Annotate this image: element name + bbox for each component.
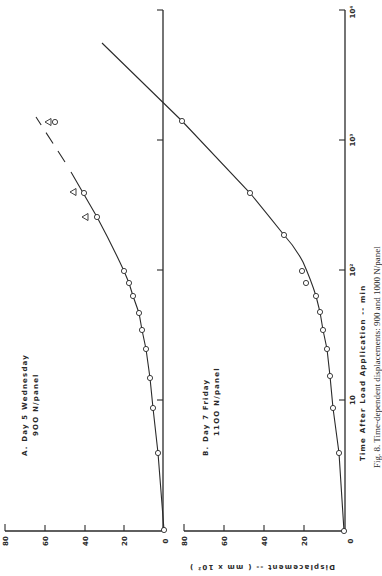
panel-a-disp-label-80: 80 — [2, 536, 10, 546]
figure: 0 20 40 60 80 0 20 40 60 80 10 10² 10³ 1… — [0, 0, 382, 576]
figure-caption: Fig. 8. Time-dependent displacements: 90… — [372, 246, 382, 468]
panel-a-fit-curve — [71, 172, 164, 530]
time-label-100: 10² — [349, 264, 357, 277]
panel-a-circle-markers — [52, 119, 166, 532]
x-axis-label: Time After Load Application -- min — [359, 285, 367, 461]
panel-b-disp-label-0: 0 — [347, 538, 355, 543]
time-label-10000: 10⁴ — [349, 6, 357, 19]
panel-b — [102, 10, 347, 534]
y-axis-label: Displacement -- ( mm x 10² ) — [189, 563, 335, 571]
panel-a — [5, 10, 167, 533]
panel-b-title-line2: 11OO N/panel — [213, 367, 221, 436]
panel-a-title-line2: 9OO N/panel — [32, 373, 40, 436]
panel-b-disp-label-80: 80 — [181, 536, 189, 546]
panel-b-title-line1: B. Day 7 Friday — [202, 379, 210, 456]
time-label-10: 10 — [349, 395, 357, 405]
panel-a-disp-label-60: 60 — [42, 536, 50, 546]
time-tick-labels: 10 10² 10³ 10⁴ — [349, 6, 357, 405]
panel-b-disp-label-20: 20 — [301, 536, 309, 546]
panel-a-title-line1: A. Day 5 Wednesday — [21, 354, 29, 456]
panel-a-disp-label-40: 40 — [82, 536, 90, 546]
panel-a-disp-label-20: 20 — [121, 536, 129, 546]
panel-b-disp-label-60: 60 — [221, 536, 229, 546]
time-label-1000: 10³ — [349, 134, 357, 147]
panel-a-triangle-markers — [45, 119, 88, 221]
panel-b-fit-curve — [102, 43, 344, 531]
panel-a-disp-label-0: 0 — [162, 538, 170, 543]
panel-b-disp-label-40: 40 — [261, 536, 269, 546]
panel-b-disp-tick-labels: 0 20 40 60 80 — [181, 536, 355, 546]
panel-a-disp-tick-labels: 0 20 40 60 80 — [2, 536, 170, 546]
panel-b-circle-markers — [179, 118, 346, 533]
